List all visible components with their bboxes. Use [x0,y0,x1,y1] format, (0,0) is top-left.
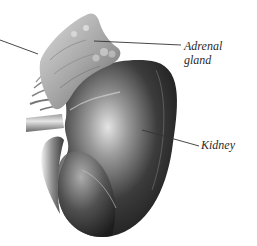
kidney-label: Kidney [201,138,235,152]
adrenal-gland-label: Adrenal gland [184,39,222,67]
leader-line-left [0,40,38,54]
kidney-illustration [0,0,257,246]
anatomy-figure: Adrenal gland Kidney [0,0,257,246]
adrenal-label-line1: Adrenal [184,39,222,53]
adrenal-label-line2: gland [184,53,222,67]
